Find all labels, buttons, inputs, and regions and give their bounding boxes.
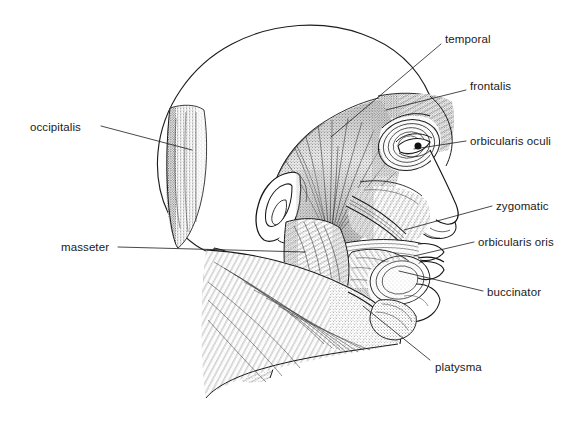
anatomical-figure: temporal frontalis orbicularis oculi zyg… [0, 0, 588, 445]
occipitalis-muscle [160, 100, 216, 256]
label-orbicularis-oris: orbicularis oris [478, 236, 554, 249]
label-temporal: temporal [445, 33, 491, 46]
label-masseter: masseter [61, 241, 109, 254]
label-frontalis: frontalis [470, 80, 511, 93]
label-orbicularis-oculi: orbicularis oculi [470, 135, 551, 148]
facial-muscles-illustration [0, 0, 588, 445]
label-platysma: platysma [435, 361, 482, 374]
label-occipitalis: occipitalis [30, 121, 81, 134]
label-buccinator: buccinator [487, 286, 541, 299]
label-zygomatic: zygomatic [496, 200, 549, 213]
